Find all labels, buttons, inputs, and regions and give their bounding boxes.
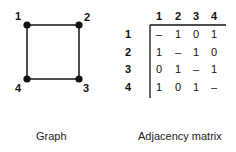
col-header: 3 bbox=[189, 11, 203, 22]
matrix-cell: 1 bbox=[171, 29, 185, 40]
node-label-3: 3 bbox=[83, 83, 89, 94]
node-3 bbox=[75, 75, 82, 82]
node-label-2: 2 bbox=[84, 12, 90, 23]
matrix-cell: 1 bbox=[189, 82, 203, 93]
matrix-cell: – bbox=[152, 29, 166, 40]
matrix-cell: 1 bbox=[189, 47, 203, 58]
matrix-cell: 1 bbox=[152, 82, 166, 93]
node-label-4: 4 bbox=[15, 83, 21, 94]
row-header: 3 bbox=[121, 64, 135, 75]
node-2 bbox=[75, 21, 82, 28]
row-header: 4 bbox=[121, 82, 135, 93]
col-header: 2 bbox=[171, 11, 185, 22]
col-header: 1 bbox=[152, 11, 166, 22]
matrix-cell: 0 bbox=[152, 64, 166, 75]
row-header: 2 bbox=[121, 47, 135, 58]
matrix-cell: 0 bbox=[189, 29, 203, 40]
matrix-cell: 1 bbox=[171, 64, 185, 75]
matrix-cell: 1 bbox=[207, 64, 221, 75]
matrix-cell: – bbox=[171, 47, 185, 58]
matrix-cell: 0 bbox=[207, 47, 221, 58]
node-label-1: 1 bbox=[15, 11, 21, 22]
graph-caption: Graph bbox=[36, 130, 67, 142]
node-4 bbox=[23, 75, 30, 82]
matrix-cell: 0 bbox=[171, 82, 185, 93]
matrix-cell: 1 bbox=[207, 29, 221, 40]
node-1 bbox=[23, 21, 30, 28]
matrix-cell: – bbox=[207, 82, 221, 93]
row-header: 1 bbox=[121, 29, 135, 40]
matrix-caption: Adjacency matrix bbox=[138, 130, 222, 142]
matrix-cell: 1 bbox=[152, 47, 166, 58]
col-header: 4 bbox=[207, 11, 221, 22]
matrix-cell: – bbox=[189, 64, 203, 75]
